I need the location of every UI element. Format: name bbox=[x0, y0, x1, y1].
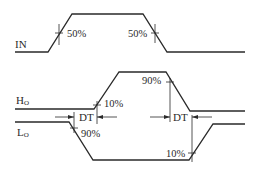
ho-label: HO bbox=[16, 94, 29, 107]
in-rise-threshold-label: 50% bbox=[67, 28, 87, 39]
ho-fall-threshold-label: 90% bbox=[142, 75, 162, 86]
lo-rise-threshold-label: 10% bbox=[166, 148, 186, 159]
dead-time-right: DT bbox=[150, 111, 212, 123]
dead-time-left: DT bbox=[55, 111, 117, 123]
ho-waveform bbox=[15, 72, 245, 111]
dt-right-label: DT bbox=[173, 111, 188, 123]
dt-left-label: DT bbox=[79, 111, 94, 123]
in-label: IN bbox=[15, 38, 27, 50]
lo-label: LO bbox=[17, 126, 29, 139]
lo-waveform bbox=[15, 122, 245, 160]
in-fall-threshold-label: 50% bbox=[128, 28, 148, 39]
ho-signal: HO 10% 90% bbox=[15, 72, 245, 124]
lo-signal: LO 90% 10% bbox=[15, 112, 245, 162]
timing-diagram: IN 50% 50% HO 10% 90% LO 90% 10% DT bbox=[0, 0, 257, 178]
ho-rise-threshold-label: 10% bbox=[104, 98, 124, 109]
in-signal: IN 50% 50% bbox=[15, 14, 245, 52]
lo-fall-threshold-label: 90% bbox=[81, 128, 101, 139]
